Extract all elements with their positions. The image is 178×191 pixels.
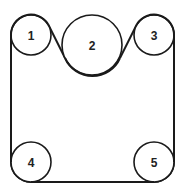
pulley-5: 5	[134, 142, 174, 182]
pulley-2-label: 2	[89, 39, 96, 53]
pulley-3-label: 3	[151, 29, 158, 43]
pulley-diagram: 1 2 3 4 5	[0, 0, 178, 191]
pulley-4: 4	[11, 142, 51, 182]
pulley-5-label: 5	[151, 156, 158, 170]
pulley-4-label: 4	[28, 156, 35, 170]
pulley-1-label: 1	[28, 29, 35, 43]
